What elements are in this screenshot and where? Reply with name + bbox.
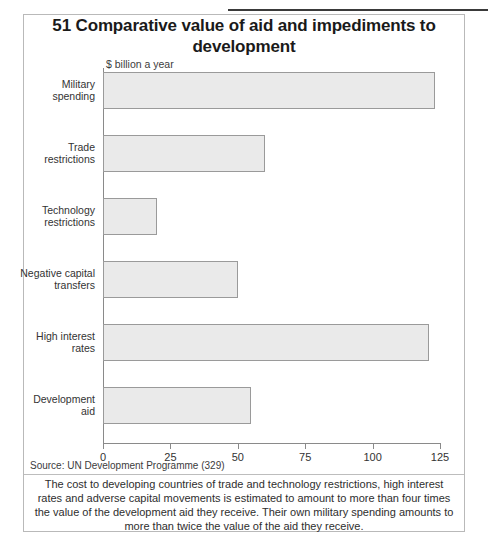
x-tick-mark (373, 444, 374, 449)
bar-high-interest-rates (103, 324, 429, 361)
x-tick-label: 100 (363, 451, 381, 463)
category-label-line: Development (3, 393, 95, 406)
bar-military-spending (103, 72, 435, 109)
category-label-line: transfers (3, 279, 95, 292)
x-tick-mark (305, 444, 306, 449)
bar-development-aid (103, 387, 251, 424)
category-label-high-interest-rates: High interestrates (3, 330, 95, 356)
category-label-line: restrictions (3, 153, 95, 166)
x-tick-mark (103, 444, 104, 449)
category-label-military-spending: Militaryspending (3, 78, 95, 104)
chart-title: 51 Comparative value of aid and impedime… (24, 16, 464, 57)
category-label-line: rates (3, 342, 95, 355)
category-label-line: Military (3, 78, 95, 91)
x-axis-line (103, 443, 441, 444)
category-label-development-aid: Developmentaid (3, 393, 95, 419)
category-label-line: aid (3, 405, 95, 418)
x-tick-mark (440, 444, 441, 449)
x-tick-label: 50 (232, 451, 244, 463)
category-label-line: spending (3, 90, 95, 103)
category-label-line: restrictions (3, 216, 95, 229)
bar-technology-restrictions (103, 198, 157, 235)
source-note: Source: UN Development Programme (329) (30, 460, 225, 471)
bar-trade-restrictions (103, 135, 265, 172)
x-tick-mark (170, 444, 171, 449)
page-header-rule (228, 9, 488, 11)
category-label-negative-capital-transfers: Negative capitaltransfers (3, 267, 95, 293)
category-label-technology-restrictions: Technologyrestrictions (3, 204, 95, 230)
x-tick-mark (238, 444, 239, 449)
x-tick-label: 75 (299, 451, 311, 463)
category-label-line: Trade (3, 141, 95, 154)
plot-area: MilitaryspendingTraderestrictionsTechnol… (103, 68, 440, 444)
x-tick-label: 125 (431, 451, 449, 463)
bar-negative-capital-transfers (103, 261, 238, 298)
figure-caption: The cost to developing countries of trad… (32, 478, 456, 534)
category-label-line: High interest (3, 330, 95, 343)
caption-divider (24, 474, 464, 475)
category-label-line: Technology (3, 204, 95, 217)
category-label-line: Negative capital (3, 267, 95, 280)
category-label-trade-restrictions: Traderestrictions (3, 141, 95, 167)
